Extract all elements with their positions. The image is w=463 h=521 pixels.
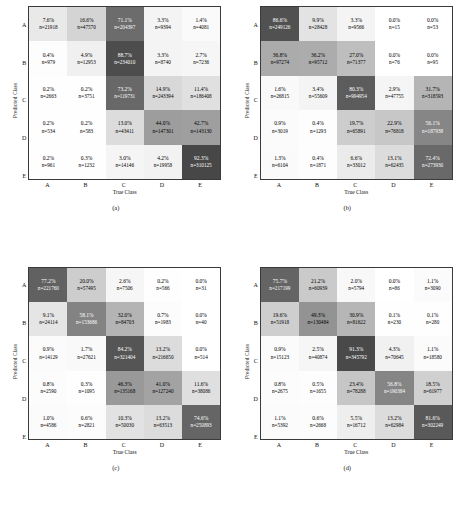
cell-percent: 0.2% xyxy=(81,85,92,93)
matrix-cell: 0.0%n=86 xyxy=(375,268,413,302)
x-axis-tick: A xyxy=(260,182,298,188)
matrix-cell: 0.5%n=1655 xyxy=(299,371,337,405)
cell-count: n=14146 xyxy=(116,162,135,170)
matrix-cell: 1.4%n=4081 xyxy=(182,7,220,41)
x-axis-tick: E xyxy=(413,182,451,188)
confusion-matrix: 86.6%n=2491269.9%n=284283.3%n=95660.0%n=… xyxy=(260,6,453,180)
cell-count: n=1293 xyxy=(310,128,326,136)
cell-count: n=127240 xyxy=(152,388,173,396)
cell-percent: 74.6% xyxy=(194,414,208,422)
cell-count: n=62435 xyxy=(385,162,404,170)
matrix-cell: 9.1%n=24114 xyxy=(29,302,67,336)
matrix-cell: 4.9%n=12953 xyxy=(67,41,105,75)
cell-percent: 4.3% xyxy=(389,345,400,353)
cell-percent: 0.0% xyxy=(195,345,206,353)
y-axis-tick: D xyxy=(19,119,28,157)
cell-percent: 0.2% xyxy=(43,119,54,127)
x-axis-tick: A xyxy=(28,182,66,188)
cell-count: n=81622 xyxy=(347,319,366,327)
cell-count: n=2668 xyxy=(310,422,326,430)
matrix-cell: 13.2%n=63513 xyxy=(144,405,182,439)
matrix-cell: 91.3%n=345792 xyxy=(337,336,375,370)
cell-count: n=5392 xyxy=(272,422,288,430)
matrix-cell: 1.1%n=5392 xyxy=(261,405,299,439)
matrix-cell: 0.2%n=3751 xyxy=(67,76,105,110)
matrix-cell: 84.2%n=321404 xyxy=(106,336,144,370)
cell-count: n=216650 xyxy=(152,354,173,362)
cell-percent: 0.1% xyxy=(389,311,400,319)
cell-percent: 11.6% xyxy=(194,380,208,388)
cell-count: n=70645 xyxy=(385,354,404,362)
matrix-cell: 0.2%n=566 xyxy=(144,268,182,302)
cell-count: n=61977 xyxy=(423,388,442,396)
matrix-cell: 46.3%n=135168 xyxy=(106,371,144,405)
matrix-cell: 0.0%n=95 xyxy=(414,41,452,75)
x-axis-tick: A xyxy=(260,442,298,448)
cell-count: n=53 xyxy=(427,24,438,32)
cell-percent: 3.3% xyxy=(351,16,362,24)
matrix-cell: 58.1%n=153686 xyxy=(67,302,105,336)
cell-count: n=3019 xyxy=(272,128,288,136)
cell-count: n=234010 xyxy=(114,59,135,67)
y-axis-label: Predicted Class xyxy=(10,6,19,195)
cell-percent: 14.9% xyxy=(156,85,170,93)
cell-count: n=57495 xyxy=(77,285,96,293)
y-axis-tick: A xyxy=(19,267,28,305)
cell-percent: 13.2% xyxy=(156,414,170,422)
cell-percent: 0.5% xyxy=(312,380,323,388)
cell-percent: 1.0% xyxy=(43,414,54,422)
cell-count: n=33012 xyxy=(347,162,366,170)
cell-percent: 0.3% xyxy=(81,154,92,162)
cell-percent: 9.1% xyxy=(43,311,54,319)
cell-percent: 23.4% xyxy=(349,380,363,388)
y-axis-tick: C xyxy=(251,82,260,120)
y-axis-tick: D xyxy=(251,119,260,157)
cell-count: n=12953 xyxy=(77,59,96,67)
cell-percent: 21.2% xyxy=(311,277,325,285)
matrix-cell: 0.3%n=1095 xyxy=(67,371,105,405)
matrix-cell: 0.6%n=2821 xyxy=(67,405,105,439)
matrix-cell: 0.9%n=15123 xyxy=(261,336,299,370)
cell-percent: 58.1% xyxy=(79,311,93,319)
y-axis-tick: C xyxy=(251,342,260,380)
matrix-cell: 0.2%n=2663 xyxy=(29,76,67,110)
cell-percent: 0.4% xyxy=(312,154,323,162)
cell-count: n=51918 xyxy=(271,319,290,327)
cell-count: n=4081 xyxy=(193,24,209,32)
cell-count: n=84703 xyxy=(116,319,135,327)
cell-percent: 9.9% xyxy=(312,16,323,24)
cell-percent: 1.6% xyxy=(274,85,285,93)
matrix-cell: 0.8%n=2675 xyxy=(261,371,299,405)
plot-wrapper: Predicted ClassABCDE86.6%n=2491269.9%n=2… xyxy=(242,6,453,195)
cell-count: n=204397 xyxy=(114,24,135,32)
cell-percent: 13.2% xyxy=(156,345,170,353)
cell-percent: 4.9% xyxy=(81,51,92,59)
cell-count: n=318593 xyxy=(422,93,443,101)
cell-count: n=26815 xyxy=(271,93,290,101)
matrix-cell: 6.6%n=33012 xyxy=(337,145,375,179)
matrix-cell: 19.6%n=51918 xyxy=(261,302,299,336)
x-axis-label: True Class xyxy=(260,449,453,455)
matrix-cell: 0.9%n=14129 xyxy=(29,336,67,370)
cell-percent: 73.2% xyxy=(118,85,132,93)
cell-percent: 32.0% xyxy=(118,311,132,319)
cell-count: n=95712 xyxy=(309,59,328,67)
matrix-cell: 13.0%n=43411 xyxy=(106,110,144,144)
cell-percent: 0.7% xyxy=(157,311,168,319)
x-axis-tick: A xyxy=(28,442,66,448)
panel-caption: (d) xyxy=(344,464,351,471)
matrix-cell: 4.3%n=70645 xyxy=(375,336,413,370)
matrix-cell: 42.7%n=143130 xyxy=(182,110,220,144)
matrix-cell: 3.0%n=14146 xyxy=(106,145,144,179)
matrix-cell: 0.9%n=3019 xyxy=(261,110,299,144)
cell-percent: 0.8% xyxy=(43,380,54,388)
matrix-cell: 3.3%n=9566 xyxy=(337,7,375,41)
cell-percent: 1.7% xyxy=(81,345,92,353)
matrix-cell: 1.1%n=18580 xyxy=(414,336,452,370)
y-axis-ticks: ABCDE xyxy=(251,6,260,195)
cell-percent: 0.2% xyxy=(43,85,54,93)
confusion-matrix: 75.7%n=21719921.2%n=609392.0%n=57940.0%n… xyxy=(260,267,453,441)
cell-percent: 0.9% xyxy=(274,119,285,127)
cell-percent: 72.4% xyxy=(426,154,440,162)
cell-count: n=243394 xyxy=(152,93,173,101)
